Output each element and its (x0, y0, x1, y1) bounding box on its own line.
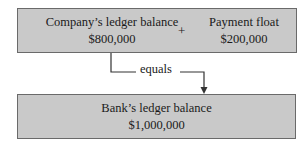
bank-ledger-label: Bank’s ledger balance (18, 100, 295, 117)
equals-label: equals (140, 62, 172, 77)
bottom-box: Bank’s ledger balance $1,000,000 (17, 94, 296, 139)
arrow-head-icon (201, 87, 208, 94)
bank-ledger-balance: Bank’s ledger balance $1,000,000 (18, 100, 295, 134)
bank-ledger-value: $1,000,000 (18, 117, 295, 134)
